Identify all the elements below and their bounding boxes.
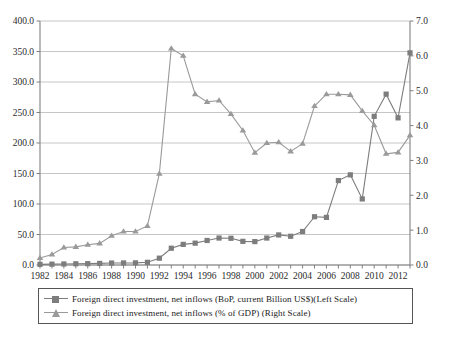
data-point-square <box>288 234 293 239</box>
chart-container: 0.050.0100.0150.0200.0250.0300.0350.0400… <box>0 0 450 337</box>
x-axis-tick-label: 1996 <box>198 271 217 281</box>
data-point-square <box>395 115 400 120</box>
data-point-square <box>169 246 174 251</box>
y-axis-right-tick-label: 1.0 <box>416 226 428 236</box>
data-point-square <box>336 178 341 183</box>
data-point-triangle <box>287 148 294 153</box>
y-axis-left-tick-label: 350.0 <box>13 47 35 57</box>
x-axis-tick-label: 1984 <box>54 271 73 281</box>
y-axis-right-tick-label: 0.0 <box>416 260 428 270</box>
y-axis-left-tick-label: 100.0 <box>13 199 35 209</box>
y-axis-right-tick-label: 4.0 <box>416 121 428 131</box>
data-point-triangle <box>407 132 414 137</box>
data-point-square <box>360 196 365 201</box>
x-axis-tick-label: 1998 <box>221 271 240 281</box>
data-point-triangle <box>168 45 175 50</box>
data-point-square <box>372 114 377 119</box>
y-axis-right-tick-label: 2.0 <box>416 191 428 201</box>
y-axis-left-tick-label: 250.0 <box>13 108 35 118</box>
x-axis-tick-label: 1990 <box>126 271 145 281</box>
chart-plot: 0.050.0100.0150.0200.0250.0300.0350.0400… <box>0 0 450 337</box>
data-point-square <box>205 238 210 243</box>
x-axis-tick-label: 2000 <box>245 271 264 281</box>
data-point-triangle <box>144 223 151 228</box>
data-point-square <box>252 239 257 244</box>
data-point-square <box>216 235 221 240</box>
data-point-triangle <box>192 91 199 96</box>
y-axis-left-tick-label: 150.0 <box>13 169 35 179</box>
data-point-square <box>228 236 233 241</box>
x-axis-tick-label: 1986 <box>78 271 97 281</box>
data-point-triangle <box>120 228 127 233</box>
data-point-square <box>61 261 66 266</box>
x-axis-tick-label: 1982 <box>31 271 50 281</box>
data-point-triangle <box>96 240 103 245</box>
x-axis-tick-label: 1992 <box>150 271 169 281</box>
data-point-square <box>300 229 305 234</box>
x-axis-tick-label: 1988 <box>102 271 121 281</box>
data-point-square <box>133 260 138 265</box>
data-point-square <box>407 50 412 55</box>
data-point-square <box>181 242 186 247</box>
series-line-right-scale <box>40 49 410 258</box>
data-point-square <box>324 215 329 220</box>
x-axis-tick-label: 2008 <box>341 271 360 281</box>
data-point-square <box>121 260 126 265</box>
data-point-triangle <box>216 97 223 102</box>
x-axis-tick-label: 2004 <box>293 271 312 281</box>
data-point-square <box>264 235 269 240</box>
y-axis-left-tick-label: 400.0 <box>13 16 35 26</box>
data-point-square <box>348 172 353 177</box>
legend-item-label: Foreign direct investment, net inflows (… <box>72 308 311 318</box>
data-point-triangle <box>156 170 163 175</box>
data-point-square <box>109 260 114 265</box>
x-axis-tick-label: 2006 <box>317 271 336 281</box>
y-axis-left-tick-label: 0.0 <box>22 260 34 270</box>
data-point-square <box>73 261 78 266</box>
x-axis-tick-label: 2002 <box>269 271 288 281</box>
y-axis-left-tick-label: 50.0 <box>17 230 34 240</box>
data-point-triangle <box>180 53 187 58</box>
data-point-square <box>193 241 198 246</box>
data-point-triangle <box>275 139 282 144</box>
x-axis-tick-label: 1994 <box>174 271 193 281</box>
data-point-square <box>157 256 162 261</box>
data-point-square <box>37 262 42 267</box>
data-point-square <box>312 214 317 219</box>
data-point-square <box>97 261 102 266</box>
y-axis-left-tick-label: 300.0 <box>13 77 35 87</box>
series-line-left-scale <box>40 53 410 264</box>
triangle-marker-icon <box>44 307 68 319</box>
y-axis-right-tick-label: 3.0 <box>416 156 428 166</box>
y-axis-left-tick-label: 200.0 <box>13 138 35 148</box>
data-point-square <box>276 232 281 237</box>
data-point-square <box>85 261 90 266</box>
x-axis-tick-label: 2012 <box>389 271 408 281</box>
x-axis-tick-label: 2010 <box>365 271 384 281</box>
y-axis-right-tick-label: 7.0 <box>416 16 428 26</box>
data-point-triangle <box>323 91 330 96</box>
square-marker-icon <box>44 293 68 305</box>
legend-item-left-scale: Foreign direct investment, net inflows (… <box>44 292 407 306</box>
y-axis-right-tick-label: 5.0 <box>416 86 428 96</box>
legend-item-right-scale: Foreign direct investment, net inflows (… <box>44 306 407 320</box>
data-point-triangle <box>49 251 56 256</box>
data-point-square <box>49 262 54 267</box>
chart-legend: Foreign direct investment, net inflows (… <box>38 288 413 324</box>
data-point-square <box>384 92 389 97</box>
data-point-square <box>145 260 150 265</box>
data-point-triangle <box>335 91 342 96</box>
legend-item-label: Foreign direct investment, net inflows (… <box>72 294 357 304</box>
y-axis-right-tick-label: 6.0 <box>416 51 428 61</box>
data-point-square <box>240 239 245 244</box>
